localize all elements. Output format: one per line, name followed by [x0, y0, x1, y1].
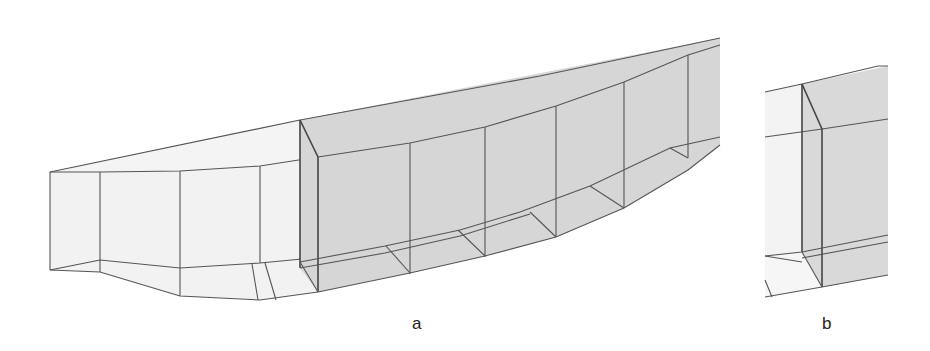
panel-b-closeup [765, 66, 888, 297]
panel-a-shaded-block [300, 38, 720, 292]
panel-label-b: b [822, 314, 831, 334]
panel-label-a: a [412, 314, 421, 334]
hull-wireframe-diagram [0, 0, 930, 351]
panel-a-light-block [50, 120, 318, 300]
